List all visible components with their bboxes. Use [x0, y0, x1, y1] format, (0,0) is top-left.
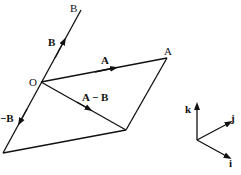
b-vector-arrow: [55, 41, 64, 58]
label-a-end: A: [164, 45, 172, 57]
label-neg-b: −B: [0, 112, 14, 124]
label-b-vector: B: [48, 36, 56, 48]
label-a-minus-b: A − B: [82, 91, 109, 103]
label-origin: O: [29, 76, 37, 88]
vector-diagram: B B O A A A − B −B k j i: [0, 0, 241, 175]
j-axis: [197, 123, 229, 140]
label-j: j: [230, 112, 235, 124]
i-axis: [197, 140, 228, 157]
edge-bottom: [3, 130, 126, 153]
neg-b-vector-arrow: [20, 109, 27, 122]
a-vector-arrow: [95, 68, 114, 72]
edge-a-to-vertex: [126, 58, 167, 130]
label-a-vector: A: [101, 54, 109, 66]
label-k: k: [185, 103, 192, 115]
a-minus-b-arrow: [77, 102, 89, 109]
label-b-end: B: [70, 2, 77, 14]
label-i: i: [229, 157, 232, 169]
